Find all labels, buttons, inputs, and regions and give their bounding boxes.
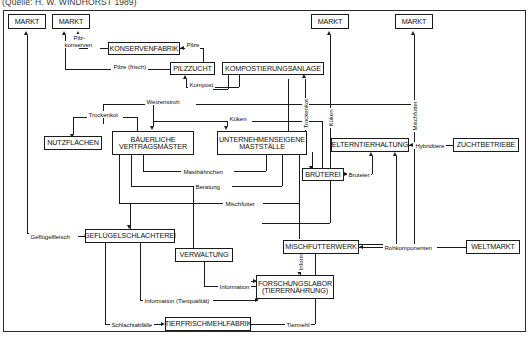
node-forschungslabor[interactable]: FORSCHUNGSLABOR (TIERERNÄHRUNG) bbox=[256, 275, 334, 299]
edge-label-trockenkot-vertical: Trockenkot bbox=[302, 98, 309, 130]
node-konservenfabrik[interactable]: KONSERVENFABRIK bbox=[108, 42, 180, 55]
node-baeuerliche-vertragsmaester[interactable]: BÄUERLICHE VERTRAGSMÄSTER bbox=[112, 131, 194, 155]
node-markt-2[interactable]: MARKT bbox=[52, 14, 90, 29]
edge-label-hybridtiere: Hybridtiere bbox=[414, 142, 446, 149]
node-line-2: VERTRAGSMÄSTER bbox=[119, 143, 187, 150]
node-line-2: (TIERERNÄHRUNG) bbox=[262, 287, 328, 294]
edge-label-kueken-vertical: Küken bbox=[327, 108, 334, 128]
node-verwaltung[interactable]: VERWALTUNG bbox=[175, 248, 233, 262]
node-weltmarkt[interactable]: WELTMARKT bbox=[466, 240, 520, 254]
edge-label-schlachtabfaelle: Schlachtabfälle bbox=[110, 321, 154, 328]
edge-label-pilzkonserven-1: Pilz- bbox=[72, 34, 87, 41]
edge-label-pilze-frisch: Pilze (frisch) bbox=[112, 63, 148, 70]
source-caption: (Quelle: H. W. WINDHORST 1989) bbox=[2, 0, 137, 7]
edge-label-kueken-horizontal: Küken bbox=[228, 115, 248, 122]
edge-label-masthaehnchen: Masthähnchen bbox=[182, 168, 224, 175]
node-unternehmenseigene-maststaelle[interactable]: UNTERNEHMENSEIGENE MASTSTÄLLE bbox=[217, 131, 307, 155]
node-markt-4[interactable]: MARKT bbox=[395, 14, 433, 29]
edge-label-weizenstroh: Weizenstroh bbox=[145, 98, 181, 105]
node-markt-3[interactable]: MARKT bbox=[311, 14, 349, 29]
node-line-2: MASTSTÄLLE bbox=[239, 143, 285, 150]
node-markt-1[interactable]: MARKT bbox=[8, 14, 46, 29]
edge-label-mischfutter-vertical: Mischfutter bbox=[411, 100, 418, 132]
edge-label-rohkomponenten: Rohkomponenten bbox=[383, 244, 433, 251]
node-tierfrischmehlfabrik[interactable]: TIERFRISCHMEHLFABRIK bbox=[165, 317, 251, 331]
edge-label-kompost: Kompost bbox=[188, 81, 215, 88]
node-mischfutterwerk[interactable]: MISCHFUTTERWERK bbox=[283, 240, 359, 254]
edge-label-information-tierqualitaet: Information (Tierqualität) bbox=[143, 297, 211, 304]
node-gefluegelschlachterei[interactable]: GEFLÜGELSCHLACHTEREI bbox=[85, 229, 175, 243]
node-elterntierhaltung[interactable]: ELTERNTIERHALTUNG bbox=[331, 138, 409, 152]
edge-label-pilzkonserven-2: konserven bbox=[63, 41, 94, 48]
node-bruterei[interactable]: BRÜTEREI bbox=[302, 168, 344, 181]
diagram-canvas: (Quelle: H. W. WINDHORST 1989) bbox=[0, 0, 532, 338]
edge-label-trockenkot: Trockenkot bbox=[87, 111, 119, 118]
edge-label-gefluegelfleisch: Geflügelfleisch bbox=[29, 233, 71, 240]
edge-label-pilze: Pilze bbox=[185, 41, 201, 48]
node-nutzflaechen[interactable]: NUTZFLÄCHEN bbox=[44, 136, 102, 150]
edge-label-beratung: Beratung bbox=[194, 183, 221, 190]
edge-label-mischfutter-horizontal: Mischfutter bbox=[224, 200, 256, 207]
node-kompostierungsanlage[interactable]: KOMPOSTIERUNGSANLAGE bbox=[222, 62, 324, 75]
node-zuchtbetriebe[interactable]: ZUCHTBETRIEBE bbox=[453, 138, 519, 152]
edge-label-information: Information bbox=[218, 283, 251, 290]
node-pilzzucht[interactable]: PILZZUCHT bbox=[170, 62, 215, 75]
edge-label-bruteier: Bruteier bbox=[347, 171, 371, 178]
edge-label-tiermehl: Tiermehl bbox=[285, 321, 311, 328]
